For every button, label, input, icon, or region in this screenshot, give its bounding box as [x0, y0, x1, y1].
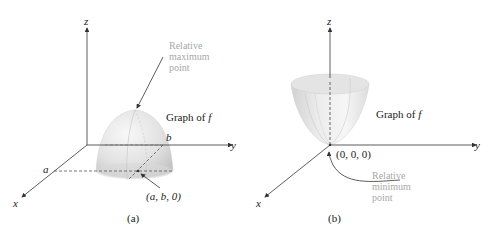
- x-axis-label: x: [13, 198, 18, 209]
- relative-maximum-annotation: Relative maximum point: [169, 40, 210, 73]
- relative-minimum-annotation: Relative minimum point: [372, 170, 411, 203]
- panel-a-relative-maximum: z y x a b Relative maximum point Graph o…: [0, 0, 245, 238]
- tick-a-label: a: [43, 164, 49, 175]
- caption-a: (a): [127, 213, 139, 224]
- x-axis-label: x: [256, 198, 261, 209]
- panel-b-relative-minimum: z y x Graph of f (0, 0, 0) Relative mini…: [245, 0, 489, 238]
- point-label: (0, 0, 0): [336, 149, 371, 160]
- tick-b-label: b: [166, 132, 172, 143]
- panel-b-figure: [245, 0, 489, 238]
- z-axis-label: z: [327, 16, 331, 27]
- max-arrow: [137, 57, 163, 108]
- z-axis-label: z: [84, 16, 88, 27]
- point-label: (a, b, 0): [146, 191, 181, 202]
- point-a-b-0: [137, 170, 139, 172]
- y-axis-label: y: [475, 140, 480, 151]
- y-axis-label: y: [231, 140, 236, 151]
- graph-of-f-label: Graph of f: [166, 112, 211, 123]
- graph-of-f-label: Graph of f: [376, 109, 421, 120]
- x-axis: [265, 145, 330, 197]
- caption-b: (b): [328, 213, 341, 224]
- point-origin: [329, 144, 331, 146]
